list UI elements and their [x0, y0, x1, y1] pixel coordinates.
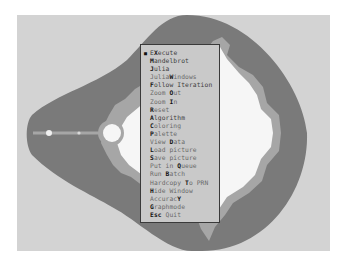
menu-item-follow-iteration[interactable]: Follow Iteration — [144, 81, 219, 89]
menu-item-view-data[interactable]: View Data — [144, 138, 219, 146]
menu-item-zoom-out[interactable]: Zoom Out — [144, 89, 219, 97]
menu-item-put-in-queue[interactable]: Put in Queue — [144, 162, 219, 170]
menu-item-load-picture[interactable]: Load picture — [144, 146, 219, 154]
menu-item-reset[interactable]: Reset — [144, 106, 219, 114]
menu-item-esc-quit[interactable]: Esc Quit — [144, 211, 219, 219]
menu-item-hide-window[interactable]: Hide Window — [144, 187, 219, 195]
menu-item-graphmode[interactable]: Graphmode — [144, 203, 219, 211]
mini-bulb — [46, 130, 52, 136]
menu-item-coloring[interactable]: Coloring — [144, 122, 219, 130]
menu-item-execute[interactable]: ■EXecute — [144, 49, 219, 57]
menu-item-run-batch[interactable]: Run Batch — [144, 170, 219, 178]
menu-item-julia-windows[interactable]: JuliaWindows — [144, 73, 219, 81]
main-menu: ■EXecute Mandelbrot Julia JuliaWindows F… — [140, 44, 220, 223]
menu-item-save-picture[interactable]: Save picture — [144, 154, 219, 162]
menu-item-accuracy[interactable]: AccuracY — [144, 195, 219, 203]
menu-item-algorithm[interactable]: Algorithm — [144, 114, 219, 122]
menu-item-palette[interactable]: Palette — [144, 130, 219, 138]
menu-item-hardcopy-to-prn[interactable]: Hardcopy To PRN — [144, 179, 219, 187]
menu-item-zoom-in[interactable]: Zoom In — [144, 98, 219, 106]
menu-item-mandelbrot[interactable]: Mandelbrot — [144, 57, 219, 65]
menu-item-julia[interactable]: Julia — [144, 65, 219, 73]
fractal-canvas[interactable]: ■EXecute Mandelbrot Julia JuliaWindows F… — [17, 15, 330, 251]
